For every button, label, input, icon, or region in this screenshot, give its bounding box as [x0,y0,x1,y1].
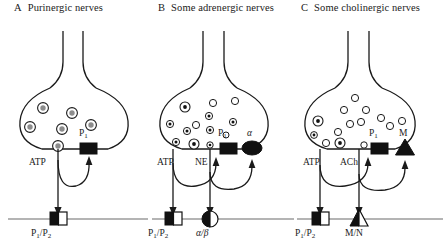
vesicle-dotted [207,142,213,148]
vesicle-group [166,97,238,149]
transmitter-label-atp: ATP [29,157,46,167]
postjunctional-receptor-m-n [350,209,368,226]
vesicle-group [311,94,406,148]
vesicle [25,122,36,133]
axon-stem-left [335,31,348,88]
postjunctional-receptor-alpha-beta [202,211,218,227]
vesicle-open [340,106,347,113]
vesicle-open [357,118,364,125]
axon-stem-right [83,31,96,88]
feedback-arrowhead-alpha [249,159,256,168]
vesicle-dotted [183,127,190,134]
prejunctional-receptor-p1 [371,143,388,154]
transmitter-label-ne: NE [195,157,208,167]
prejunctional-label-p1: P1 [218,128,227,138]
vesicle-open [231,97,238,104]
prejunctional-receptor-p1 [220,143,237,154]
vesicle-dotted [313,116,323,126]
panel-a-purinergic: APurinergic nerves [0,0,155,247]
feedback-arrowhead-p1 [365,157,372,166]
axon-stem-right [369,31,382,88]
vesicle-open [346,120,353,127]
prejunctional-receptor-alpha [242,141,262,155]
feedback-arrowhead-p1 [213,157,220,166]
panel-b-graphic [148,0,298,247]
transmitter-label-atp: ATP [157,157,174,167]
vesicle-dotted [229,118,236,125]
vesicle-dotted [335,138,345,148]
vesicle-open [377,114,384,121]
prejunctional-label-m: M [399,128,407,138]
axon-stem-left [190,31,203,88]
postjunctional-receptor-p1p2 [50,212,67,225]
postjunctional-receptor-p1p2 [165,212,182,225]
vesicle-dotted [180,102,190,112]
vesicle-open [351,94,358,101]
transmitter-label-ach: ACh [340,157,358,167]
postjunctional-label-p1p2: P1/P2 [295,228,315,238]
vesicle [57,124,68,135]
vesicle-open [192,121,199,128]
prejunctional-receptor-p1 [80,143,97,154]
vesicle-dotted [205,112,212,119]
figure-root: APurinergic nerves [0,0,447,247]
vesicle-open [398,117,405,124]
feedback-loop-ach-m [359,168,405,190]
prejunctional-label-p1: P1 [369,128,378,138]
panel-b-adrenergic: BSome adrenergic nerves [148,0,298,247]
feedback-arrowhead-m [402,160,409,169]
feedback-loop-ne-alpha [210,166,252,189]
axon-stem-left [50,31,63,88]
axon-stem-right [224,31,237,88]
vesicle [38,103,49,114]
transmitter-label-atp: ATP [303,157,320,167]
prejunctional-receptor-m [396,139,415,155]
vesicle-open [386,122,393,129]
vesicle-dotted [189,139,199,149]
vesicle-open [361,142,367,148]
panel-c-cholinergic: CSome cholinergic nerves [293,0,447,247]
feedback-loop-p1 [58,160,89,186]
postjunctional-label-m-n: M/N [345,228,363,238]
vesicle-dotted [172,138,179,145]
postjunctional-receptor-p1p2 [312,212,329,225]
postjunctional-label-p1p2: P1/P2 [31,228,51,238]
vesicle [67,108,78,119]
prejunctional-label-p1: P1 [79,128,88,138]
vesicle-dotted [311,132,318,139]
vesicle-open [334,128,341,135]
prejunctional-label-alpha: α [247,128,252,138]
panel-a-graphic [0,0,155,247]
postjunctional-label-p1p2: P1/P2 [148,228,168,238]
vesicle-open [362,106,369,113]
panel-c-graphic [293,0,447,247]
vesicle-dotted [206,126,213,133]
vesicle-open [209,99,216,106]
vesicle-dotted [166,120,173,127]
postjunctional-label-alpha-beta: α/β [196,228,208,238]
vesicle-open [322,139,329,146]
feedback-arrowhead-p1 [86,156,93,165]
